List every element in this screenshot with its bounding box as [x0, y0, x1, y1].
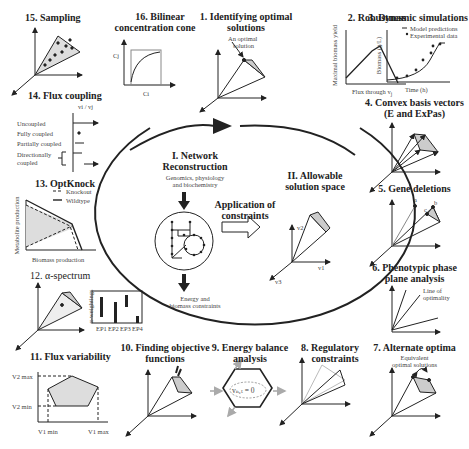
convex-basis-plot: [370, 123, 440, 192]
network-subtitle-line1: Genomics, physiology: [155, 174, 235, 181]
panel-3-xlabel: Time (h): [405, 86, 428, 93]
panel-16-title-line2: concentration cone: [105, 22, 205, 33]
panel-12-title: 12. α-spectrum: [30, 270, 90, 281]
constraints-label-line2: constraints: [210, 210, 280, 221]
panel-14-ratio: vi / vj: [78, 103, 93, 110]
panel-4-title-line1: 4. Convex basis vectors: [360, 97, 469, 108]
panel-13-legend-wildtype: Wildtype: [66, 197, 90, 204]
panel-7-note-line2: optimal solutions: [360, 361, 469, 368]
regulatory-plot: [280, 358, 350, 425]
panel-13-ylabel: Metabolite production: [13, 197, 20, 255]
panel-11-title: 11. Flux variability: [30, 351, 110, 362]
solution-space-title-line2: solution space: [275, 181, 355, 192]
panel-1-note-line1: An optimal: [228, 35, 257, 42]
panel-5-title: 5. Gene deletions: [360, 183, 469, 194]
panel-14-row-coupled: coupled: [17, 159, 38, 166]
panel-12-bar-label-1: EP1: [96, 325, 107, 332]
alternate-optima-plot: [370, 368, 440, 436]
panel-3-title: 3. Dynamic simulations: [368, 12, 468, 23]
panel-14-row-directionally: Directionally: [17, 151, 51, 158]
panel-5-label-a: a: [414, 196, 417, 203]
panel-1-title-line1: 1. Identifying optimal: [196, 11, 296, 22]
panel-3-ylabel: Biomass (g/L): [375, 37, 382, 74]
objective-function-plot: [126, 366, 196, 436]
panel-6-title-line1: 6. Phenotypic phase: [360, 262, 469, 273]
panel-1-note-line2: solution: [233, 42, 254, 49]
panel-3-legend-experimental: Experimental data: [410, 32, 457, 39]
panel-14-row-fully: Fully coupled: [17, 130, 53, 137]
solution-space-title-line1: II. Allowable: [275, 170, 355, 181]
panel-1-title-line2: solutions: [196, 22, 296, 33]
panel-3-legend-model: Model predictions: [410, 25, 457, 32]
flux-coupling-glyphs: [58, 113, 98, 172]
panel-13-xlabel: Biomass production: [32, 256, 84, 263]
sampling-plot: [12, 28, 82, 95]
constraints-label-line1: Application of: [210, 199, 280, 210]
panel-7-note-line1: Equivalent: [360, 354, 469, 361]
flux-variability-plot: [38, 372, 108, 422]
panel-13-legend-knockout: Knockout: [66, 188, 92, 195]
panel-5-label-c: c: [424, 206, 427, 213]
optimal-solution-plot: [200, 42, 266, 112]
axis-v2-label: v2: [297, 224, 304, 231]
panel-9-title-line2: analysis: [205, 353, 295, 364]
alpha-spectrum-plot: [16, 283, 142, 350]
central-cycle: [95, 118, 415, 325]
axis-v3-label: v3: [275, 278, 282, 285]
panel-12-bar-label-2: EP2: [108, 325, 119, 332]
panel-14-title: 14. Flux coupling: [28, 90, 102, 101]
panel-2-ylabel: Maximal biomass yield: [331, 25, 338, 86]
panel-8-title-line2: constraints: [295, 353, 375, 364]
panel-14-row-partially: Partially coupled: [17, 140, 61, 147]
panel-9-title-line1: 9. Energy balance: [205, 342, 295, 353]
network-title-line1: I. Network: [160, 150, 230, 161]
panel-11-v1max: V1 max: [88, 428, 109, 435]
panel-6-note-line1: Line of: [423, 287, 442, 294]
panel-4-title-line2: (E and ExPas): [360, 108, 469, 119]
network-subtitle-line2: and biochemistry: [155, 181, 235, 188]
panel-6-note-line2: optimality: [423, 294, 450, 301]
panel-10-title-line2: functions: [115, 353, 215, 364]
panel-7-title: 7. Alternate optima: [360, 342, 469, 353]
panel-15-title: 15. Sampling: [25, 12, 81, 23]
panel-9-equation: vₙₑₜ = 0: [232, 387, 255, 394]
panel-14-row-uncoupled: Uncoupled: [17, 120, 46, 127]
panel-12-bar-label-4: EP4: [132, 325, 143, 332]
gene-deletions-plot: [370, 200, 440, 266]
panel-16-title-line1: 16. Bilinear: [125, 11, 195, 22]
panel-16-ylabel: Cj: [113, 52, 119, 59]
energy-biomass-line1: Energy and: [155, 295, 235, 302]
panel-11-v2max: V2 max: [12, 373, 33, 380]
panel-12-ylabel: α-weightings: [87, 289, 94, 323]
bilinear-plot: [124, 40, 175, 85]
network-title-line2: Reconstruction: [155, 161, 235, 172]
panel-10-title-line1: 10. Finding objective: [115, 342, 215, 353]
panel-8-title-line1: 8. Regulatory: [290, 342, 370, 353]
panel-11-v1min: V1 min: [38, 428, 58, 435]
panel-12-bar-label-3: EP3: [120, 325, 131, 332]
axis-v1-label: v1: [318, 264, 325, 271]
panel-16-xlabel: Ci: [143, 90, 149, 97]
network-icon: [155, 192, 213, 292]
panel-11-v2min: V2 min: [12, 403, 32, 410]
panel-6-title-line2: plane analysis: [360, 273, 469, 284]
panel-5-label-b: b: [434, 199, 437, 206]
diagram-graphics: [0, 0, 469, 449]
energy-biomass-line2: biomass constraints: [150, 302, 240, 309]
